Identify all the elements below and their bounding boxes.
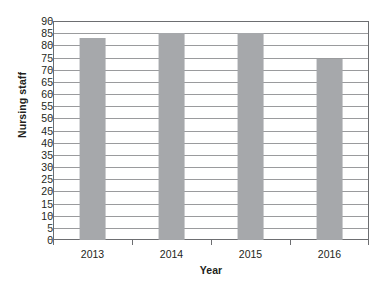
y-tick-label: 35 — [7, 150, 53, 160]
gridline — [54, 94, 368, 95]
plot-area — [53, 21, 369, 240]
y-tick-label: 70 — [7, 65, 53, 75]
x-axis-title: Year — [53, 264, 369, 276]
gridline — [54, 82, 368, 83]
y-tick-mark — [48, 20, 52, 21]
y-tick-mark — [48, 203, 52, 204]
y-tick-mark — [48, 154, 52, 155]
bar-chart: Nursing staff 05101520253035404550556065… — [0, 0, 384, 284]
y-tick-mark — [48, 166, 52, 167]
y-tick-mark — [48, 130, 52, 131]
y-tick-mark — [48, 32, 52, 33]
x-tick-mark — [368, 240, 369, 245]
y-tick-label: 40 — [7, 138, 53, 148]
gridline — [54, 58, 368, 59]
gridline — [54, 179, 368, 180]
gridline — [54, 155, 368, 156]
y-tick-mark — [48, 93, 52, 94]
y-tick-mark — [48, 142, 52, 143]
y-tick-label: 45 — [7, 126, 53, 136]
y-tick-label: 25 — [7, 174, 53, 184]
gridline — [54, 228, 368, 229]
y-tick-label: 55 — [7, 101, 53, 111]
x-tick-mark — [211, 240, 212, 245]
gridline — [54, 70, 368, 71]
x-tick-label: 2015 — [211, 246, 290, 262]
y-tick-mark — [48, 178, 52, 179]
x-tick-mark — [290, 240, 291, 245]
y-tick-mark — [48, 117, 52, 118]
gridline — [54, 167, 368, 168]
x-tick-label: 2014 — [132, 246, 211, 262]
gridline — [54, 143, 368, 144]
y-tick-mark — [48, 44, 52, 45]
gridline — [54, 118, 368, 119]
x-axis-labels: 2013201420152016 — [53, 246, 369, 262]
y-tick-label: 5 — [7, 223, 53, 233]
gridline — [54, 191, 368, 192]
gridline — [54, 106, 368, 107]
y-tick-label: 30 — [7, 162, 53, 172]
y-tick-label: 85 — [7, 28, 53, 38]
x-tick-mark — [132, 240, 133, 245]
y-tick-mark — [48, 190, 52, 191]
gridline — [54, 131, 368, 132]
gridline — [54, 216, 368, 217]
y-tick-label: 65 — [7, 77, 53, 87]
y-tick-mark — [48, 215, 52, 216]
x-tick-label: 2013 — [53, 246, 132, 262]
y-tick-mark — [48, 239, 52, 240]
y-tick-label: 60 — [7, 89, 53, 99]
y-tick-label: 0 — [7, 235, 53, 245]
gridline — [54, 204, 368, 205]
y-tick-mark — [48, 57, 52, 58]
y-tick-mark — [48, 81, 52, 82]
y-tick-label: 75 — [7, 53, 53, 63]
y-tick-label: 10 — [7, 211, 53, 221]
y-tick-mark — [48, 227, 52, 228]
y-tick-label: 80 — [7, 40, 53, 50]
y-axis: 051015202530354045505560657075808590 — [0, 21, 53, 240]
y-tick-label: 15 — [7, 199, 53, 209]
y-tick-label: 20 — [7, 186, 53, 196]
gridline — [54, 45, 368, 46]
y-tick-mark — [48, 69, 52, 70]
x-tick-mark — [53, 240, 54, 245]
x-tick-label: 2016 — [290, 246, 369, 262]
gridline — [54, 33, 368, 34]
y-tick-label: 50 — [7, 113, 53, 123]
y-tick-label: 90 — [7, 16, 53, 26]
y-tick-mark — [48, 105, 52, 106]
